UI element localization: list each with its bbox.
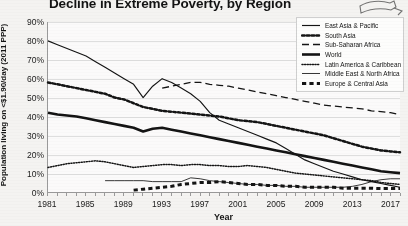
legend-item-label: Middle East & North Africa — [325, 69, 400, 78]
x-tick-mark — [133, 193, 134, 196]
x-tick-mark — [114, 193, 115, 196]
x-tick-mark — [85, 193, 86, 196]
x-tick-label: 2013 — [332, 199, 372, 209]
y-tick-label: 70% — [0, 55, 44, 65]
x-tick-mark — [152, 193, 153, 196]
x-tick-mark — [400, 193, 401, 196]
y-tick-label: 90% — [0, 17, 44, 27]
x-tick-mark — [276, 193, 277, 196]
series-line-1 — [48, 82, 400, 152]
x-tick-mark — [295, 193, 296, 196]
x-tick-mark — [171, 193, 172, 196]
y-tick-label: 0% — [0, 188, 44, 198]
legend-item[interactable]: World — [301, 50, 400, 60]
x-tick-mark — [305, 193, 306, 196]
legend-swatch-dashed-long — [301, 40, 321, 49]
chart-legend: East Asia & PacificSouth AsiaSub-Saharan… — [296, 17, 404, 92]
x-tick-mark — [123, 193, 124, 196]
legend-item[interactable]: East Asia & Pacific — [301, 21, 400, 31]
y-tick-label: 50% — [0, 93, 44, 103]
x-tick-mark — [257, 193, 258, 196]
x-tick-mark — [381, 193, 382, 196]
legend-swatch-dashed-thick — [301, 79, 321, 88]
x-tick-mark — [362, 193, 363, 196]
x-tick-mark — [352, 193, 353, 196]
x-tick-mark — [314, 193, 315, 196]
legend-swatch-dotted-heavy — [301, 31, 321, 40]
x-tick-mark — [57, 193, 58, 196]
x-tick-mark — [247, 193, 248, 196]
x-tick-mark — [142, 193, 143, 196]
x-tick-mark — [66, 193, 67, 196]
x-tick-mark — [47, 193, 48, 196]
x-tick-mark — [190, 193, 191, 196]
y-axis-tick-labels: 0%10%20%30%40%50%60%70%80%90% — [0, 22, 44, 193]
chart-container: Decline in Extreme Poverty, by Region Po… — [0, 0, 408, 226]
legend-item-label: Europe & Central Asia — [325, 79, 388, 88]
x-tick-label: 2001 — [218, 199, 258, 209]
legend-item-label: South Asia — [325, 31, 356, 40]
legend-item-label: Sub-Saharan Africa — [325, 40, 380, 49]
legend-item-label: Latin America & Caribbean — [325, 60, 401, 69]
chart-title: Decline in Extreme Poverty, by Region — [0, 0, 340, 11]
legend-item[interactable]: Middle East & North Africa — [301, 69, 400, 79]
legend-item[interactable]: South Asia — [301, 31, 400, 41]
x-tick-label: 1997 — [180, 199, 220, 209]
x-tick-mark — [324, 193, 325, 196]
x-tick-label: 1989 — [103, 199, 143, 209]
y-tick-label: 20% — [0, 150, 44, 160]
series-line-6 — [134, 182, 400, 191]
legend-swatch-solid-thick — [301, 50, 321, 59]
x-tick-mark — [95, 193, 96, 196]
legend-swatch-solid-hairline — [301, 69, 321, 78]
x-tick-mark — [219, 193, 220, 196]
x-tick-mark — [333, 193, 334, 196]
x-tick-mark — [200, 193, 201, 196]
x-tick-label: 2017 — [370, 199, 408, 209]
x-tick-mark — [266, 193, 267, 196]
x-tick-mark — [161, 193, 162, 196]
legend-swatch-solid-thin — [301, 21, 321, 30]
y-tick-label: 40% — [0, 112, 44, 122]
legend-item-label: East Asia & Pacific — [325, 21, 378, 30]
x-tick-label: 1981 — [27, 199, 67, 209]
x-axis-title: Year — [47, 212, 400, 222]
legend-item[interactable]: Sub-Saharan Africa — [301, 40, 400, 50]
x-tick-mark — [390, 193, 391, 196]
legend-item[interactable]: Latin America & Caribbean — [301, 59, 400, 69]
y-tick-label: 80% — [0, 36, 44, 46]
x-tick-mark — [238, 193, 239, 196]
y-tick-label: 30% — [0, 131, 44, 141]
y-tick-label: 10% — [0, 169, 44, 179]
x-tick-mark — [104, 193, 105, 196]
x-tick-label: 2009 — [294, 199, 334, 209]
x-tick-mark — [228, 193, 229, 196]
y-tick-label: 60% — [0, 74, 44, 84]
legend-item[interactable]: Europe & Central Asia — [301, 79, 400, 89]
x-tick-label: 1993 — [141, 199, 181, 209]
x-tick-mark — [209, 193, 210, 196]
x-tick-label: 1985 — [65, 199, 105, 209]
x-tick-label: 2005 — [256, 199, 296, 209]
legend-item-label: World — [325, 50, 342, 59]
legend-swatch-dotted-fine — [301, 60, 321, 69]
x-tick-mark — [371, 193, 372, 196]
x-axis-tick-labels: 1981198519891993199720012005200920132017 — [47, 199, 400, 211]
x-tick-mark — [181, 193, 182, 196]
x-tick-mark — [343, 193, 344, 196]
x-tick-mark — [286, 193, 287, 196]
x-tick-mark — [76, 193, 77, 196]
